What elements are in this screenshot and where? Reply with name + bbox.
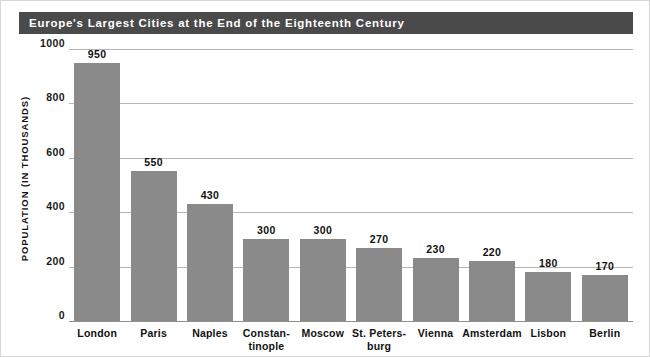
x-tick-label-line: burg — [336, 340, 422, 353]
y-tick-label: 800 — [9, 91, 65, 103]
y-tick-label: 600 — [9, 146, 65, 158]
plot-area — [69, 49, 633, 321]
chart-title-band: Europe's Largest Cities at the End of th… — [19, 12, 633, 34]
bar-value-label: 950 — [62, 48, 132, 60]
bar[interactable] — [356, 248, 402, 321]
x-tick-label-line: Berlin — [562, 327, 648, 340]
bar[interactable] — [525, 272, 571, 321]
y-tick-label: 0 — [9, 309, 65, 321]
gridline — [69, 49, 633, 50]
chart-title: Europe's Largest Cities at the End of th… — [29, 17, 405, 29]
bar-value-label: 550 — [119, 156, 189, 168]
bar[interactable] — [300, 239, 346, 321]
bar[interactable] — [413, 258, 459, 321]
bar[interactable] — [131, 171, 177, 321]
bar[interactable] — [74, 63, 120, 321]
x-tick-label-line: tinople — [223, 340, 309, 353]
bar-value-label: 170 — [570, 260, 640, 272]
bar[interactable] — [187, 204, 233, 321]
bar-value-label: 430 — [175, 189, 245, 201]
y-tick-label: 1000 — [9, 37, 65, 49]
x-axis-line — [69, 321, 633, 322]
y-axis-ticks: 02004006008001000 — [1, 1, 65, 357]
bar[interactable] — [469, 261, 515, 321]
bar[interactable] — [582, 275, 628, 321]
gridline — [69, 103, 633, 104]
y-tick-label: 400 — [9, 200, 65, 212]
chart-figure: Europe's Largest Cities at the End of th… — [0, 0, 650, 357]
bar[interactable] — [243, 239, 289, 321]
y-tick-label: 200 — [9, 255, 65, 267]
x-tick-label: Berlin — [562, 327, 648, 340]
